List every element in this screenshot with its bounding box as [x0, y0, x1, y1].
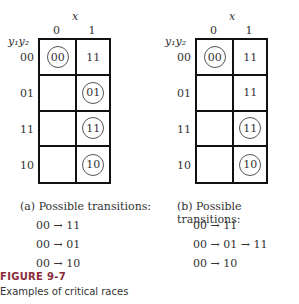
map-cell	[197, 76, 233, 112]
stable-state-circle: 00	[204, 46, 226, 68]
column-label: 0	[196, 24, 231, 37]
column-label: 1	[232, 24, 267, 37]
cell-value: 11	[243, 86, 257, 99]
cell-value: 00	[208, 51, 222, 64]
figure-caption: Examples of critical races	[0, 286, 128, 297]
map-cell: 10	[232, 147, 268, 183]
row-label: 01	[163, 87, 191, 100]
map-cell	[197, 147, 233, 183]
stable-state-circle: 10	[239, 154, 261, 176]
karnaugh-map: 0011111110	[195, 38, 268, 184]
map-cell: 11	[232, 40, 268, 76]
panel-b: x01y₁y₂001111111000011110(b) Possible tr…	[0, 0, 299, 304]
figure-number: FIGURE 9-7	[0, 271, 66, 282]
map-cell: 11	[232, 111, 268, 147]
transition: 00 → 10	[193, 257, 237, 270]
row-label: 11	[163, 123, 191, 136]
row-variable-label: y₁y₂	[165, 35, 186, 48]
map-cell	[197, 111, 233, 147]
transition: 00 → 11	[193, 219, 237, 232]
row-label: 00	[163, 51, 191, 64]
row-label: 10	[163, 159, 191, 172]
cell-value: 11	[243, 122, 257, 135]
transition: 00 → 01 → 11	[193, 238, 267, 251]
map-cell: 11	[232, 76, 268, 112]
stable-state-circle: 11	[239, 117, 261, 139]
cell-value: 11	[243, 51, 257, 64]
cell-value: 10	[243, 158, 257, 171]
x-variable-label: x	[229, 10, 235, 23]
map-cell: 00	[197, 40, 233, 76]
